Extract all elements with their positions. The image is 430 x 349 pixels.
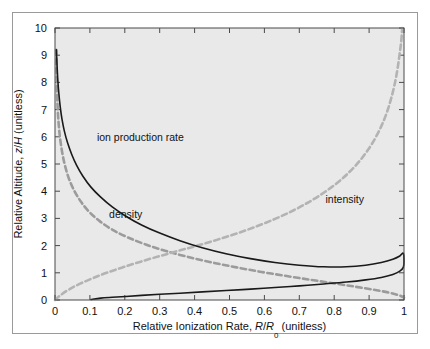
y-tick-label: 4 <box>41 185 47 197</box>
x-tick-label: 0.6 <box>257 305 272 317</box>
y-tick-label: 8 <box>41 76 47 88</box>
y-tick-label: 5 <box>41 158 47 170</box>
x-tick-label: 0.1 <box>82 305 97 317</box>
y-tick-label: 10 <box>35 22 47 34</box>
x-tick-label: 0.8 <box>327 305 342 317</box>
ionization-rate-altitude-chart: 00.10.20.30.40.50.60.70.80.91 0123456789… <box>0 0 430 349</box>
y-tick-label: 9 <box>41 49 47 61</box>
x-tick-label: 0.4 <box>187 305 202 317</box>
y-tick-label: 2 <box>41 240 47 252</box>
y-tick-label: 3 <box>41 212 47 224</box>
x-tick-label: 0.7 <box>292 305 307 317</box>
x-tick-label: 0.2 <box>117 305 132 317</box>
plot-area-background <box>55 28 404 300</box>
x-tick-label: 0.9 <box>361 305 376 317</box>
x-axis-tick-labels: 00.10.20.30.40.50.60.70.80.91 <box>52 305 407 317</box>
x-tick-label: 1 <box>401 305 407 317</box>
x-tick-label: 0.5 <box>222 305 237 317</box>
curve-label-ion-production-rate: ion production rate <box>97 131 184 143</box>
y-axis-tick-labels: 012345678910 <box>35 22 47 306</box>
x-tick-label: 0 <box>52 305 58 317</box>
curve-label-intensity: intensity <box>325 193 364 205</box>
x-tick-label: 0.3 <box>152 305 167 317</box>
y-tick-label: 6 <box>41 131 47 143</box>
y-axis-title: Relative Altitude, z/H (unitless) <box>12 89 24 238</box>
y-tick-label: 1 <box>41 267 47 279</box>
curve-label-density: density <box>109 208 143 220</box>
x-axis-title: Relative Ionization Rate, R/R0 (unitless… <box>133 320 326 340</box>
y-tick-label: 7 <box>41 104 47 116</box>
y-tick-label: 0 <box>41 294 47 306</box>
